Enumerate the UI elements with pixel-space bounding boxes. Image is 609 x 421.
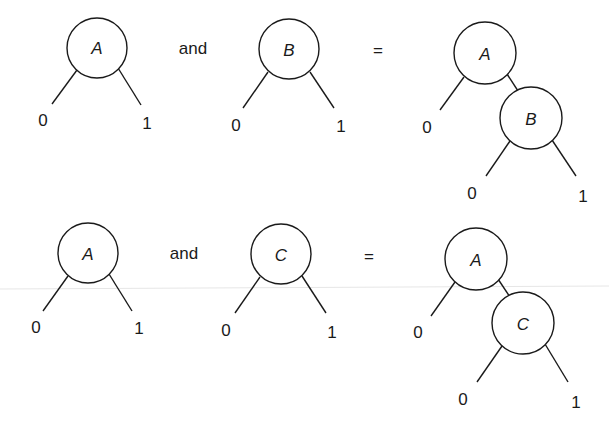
node-label: A (81, 245, 93, 264)
edge-low (43, 276, 68, 311)
root-node-label: A (469, 251, 481, 270)
operator-and: and (179, 39, 207, 58)
leaf-low: 0 (31, 318, 40, 337)
edge-low (235, 277, 260, 313)
child-leaf-high: 1 (571, 393, 580, 412)
equals-sign: = (373, 41, 383, 60)
diagram-canvas: A 0 1 and B 0 1 = A 0 B 0 1 (0, 0, 609, 421)
row-2-right-tree: C 0 1 (221, 224, 336, 342)
edge-root-high (498, 279, 510, 297)
leaf-low: 0 (231, 116, 240, 135)
child-node-label: B (525, 110, 536, 129)
row-2-result-tree: A 0 C 0 1 (413, 228, 580, 412)
edge-low (243, 72, 268, 108)
row-1: A 0 1 and B 0 1 = A 0 B 0 1 (38, 18, 587, 206)
equals-sign: = (364, 247, 374, 266)
edge-high (302, 276, 326, 313)
edge-high (310, 72, 334, 108)
root-leaf-low: 0 (422, 118, 431, 137)
row-2: A 0 1 and C 0 1 = A 0 C 0 1 (31, 223, 580, 412)
edge-low (52, 70, 77, 104)
root-leaf-low: 0 (413, 323, 422, 342)
leaf-high: 1 (327, 323, 336, 342)
child-leaf-high: 1 (578, 187, 587, 206)
edge-root-low (440, 77, 464, 110)
row-1-left-tree: A 0 1 (38, 18, 151, 133)
leaf-low: 0 (221, 321, 230, 340)
leaf-low: 0 (38, 111, 47, 130)
row-2-left-tree: A 0 1 (31, 223, 143, 338)
row-1-right-tree: B 0 1 (231, 19, 345, 136)
node-label: C (275, 246, 288, 265)
scan-line (0, 286, 609, 289)
child-leaf-low: 0 (467, 184, 476, 203)
leaf-high: 1 (336, 117, 345, 136)
operator-and: and (170, 244, 198, 263)
edge-high (109, 274, 132, 311)
row-1-result-tree: A 0 B 0 1 (422, 22, 587, 206)
edge-child-high (552, 140, 576, 176)
leaf-high: 1 (134, 319, 143, 338)
child-node-label: C (517, 315, 530, 334)
node-label: A (90, 39, 102, 58)
leaf-high: 1 (142, 114, 151, 133)
node-label: B (283, 41, 294, 60)
child-leaf-low: 0 (458, 390, 467, 409)
root-node-label: A (478, 45, 490, 64)
edge-child-low (486, 141, 510, 176)
edge-child-high (545, 344, 568, 382)
edge-high (118, 68, 141, 105)
edge-child-low (477, 346, 502, 382)
